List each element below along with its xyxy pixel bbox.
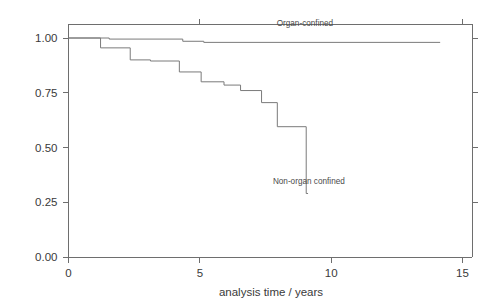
x-axis-tick-label: 15 bbox=[456, 267, 469, 279]
y-axis-tick-label: 0.25 bbox=[35, 196, 57, 208]
x-axis-tick-label: 5 bbox=[197, 267, 203, 279]
y-axis-tick-label: 0.75 bbox=[35, 87, 57, 99]
y-axis-tick-label: 0.00 bbox=[35, 251, 57, 263]
x-axis-tick-label: 10 bbox=[325, 267, 338, 279]
chart-background bbox=[0, 0, 496, 307]
y-axis-tick-label: 0.50 bbox=[35, 142, 57, 154]
chart-figure: 0.000.250.500.751.00 051015 Organ-confin… bbox=[0, 0, 496, 307]
series-label: Organ-confined bbox=[277, 19, 334, 28]
x-axis-tick-label: 0 bbox=[65, 267, 71, 279]
series-label: Non-organ confined bbox=[273, 177, 345, 186]
y-axis-tick-label: 1.00 bbox=[35, 32, 57, 44]
x-axis-title: analysis time / years bbox=[219, 286, 323, 298]
survival-chart-canvas: 0.000.250.500.751.00 051015 Organ-confin… bbox=[0, 0, 496, 307]
